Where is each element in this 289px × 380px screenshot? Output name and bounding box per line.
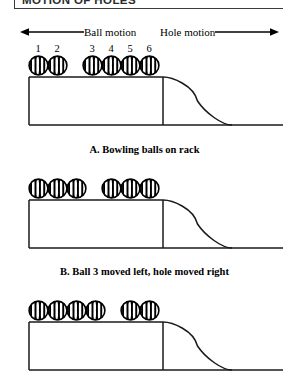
ball-motion-indicator: Ball motion xyxy=(20,24,136,40)
motion-direction-row: Ball motion Hole motion xyxy=(0,24,289,40)
bowling-ball-icon xyxy=(120,55,141,76)
page-title: MOTION OF HOLES xyxy=(22,0,136,6)
bowling-ball-icon xyxy=(66,178,87,199)
bowling-ball-icon xyxy=(47,300,68,321)
diagram-b xyxy=(0,178,289,256)
bowling-ball xyxy=(139,300,160,321)
hole-motion-indicator: Hole motion xyxy=(160,24,279,40)
bowling-ball xyxy=(101,55,122,76)
bowling-ball-icon xyxy=(120,178,141,199)
ball-row-a xyxy=(0,55,289,85)
bowling-ball xyxy=(66,178,87,199)
bowling-ball-icon xyxy=(139,300,160,321)
bowling-ball xyxy=(47,300,68,321)
bowling-ball-icon xyxy=(139,178,160,199)
bowling-ball xyxy=(82,55,103,76)
bowling-ball-icon xyxy=(47,55,68,76)
ball-number-2: 2 xyxy=(51,42,63,55)
bowling-ball xyxy=(47,178,68,199)
bowling-ball-icon xyxy=(66,300,87,321)
ball-row-c xyxy=(0,300,289,330)
bowling-ball xyxy=(139,55,160,76)
diagram-a xyxy=(0,55,289,133)
ball-number-5: 5 xyxy=(124,42,136,55)
page-header: MOTION OF HOLES xyxy=(0,0,289,14)
bowling-ball-icon xyxy=(28,55,49,76)
bowling-ball xyxy=(28,300,49,321)
bowling-ball xyxy=(120,300,141,321)
ball-number-1: 1 xyxy=(32,42,44,55)
arrow-left-icon xyxy=(20,25,84,39)
bowling-ball xyxy=(28,55,49,76)
bowling-ball xyxy=(47,55,68,76)
ball-number-6: 6 xyxy=(143,42,155,55)
ball-number-4: 4 xyxy=(105,42,117,55)
bowling-ball-icon xyxy=(85,300,106,321)
bowling-ball xyxy=(139,178,160,199)
bowling-ball xyxy=(101,178,122,199)
bowling-ball-icon xyxy=(28,178,49,199)
bowling-ball xyxy=(120,55,141,76)
bowling-ball-icon xyxy=(120,300,141,321)
diagram-c xyxy=(0,300,289,380)
caption-b: B. Ball 3 moved left, hole moved right xyxy=(0,265,289,279)
ball-row-b xyxy=(0,178,289,208)
bowling-ball xyxy=(66,300,87,321)
caption-a: A. Bowling balls on rack xyxy=(0,143,289,157)
bowling-ball-icon xyxy=(139,55,160,76)
arrow-right-icon xyxy=(215,25,279,39)
bowling-ball-icon xyxy=(101,178,122,199)
bowling-ball-icon xyxy=(101,55,122,76)
bowling-ball xyxy=(120,178,141,199)
bowling-ball xyxy=(85,300,106,321)
ball-number-row: 123456 xyxy=(0,42,289,55)
hole-motion-label: Hole motion xyxy=(160,24,215,40)
bowling-ball-icon xyxy=(28,300,49,321)
ball-number-3: 3 xyxy=(86,42,98,55)
ball-motion-label: Ball motion xyxy=(84,24,136,40)
bowling-ball xyxy=(28,178,49,199)
bowling-ball-icon xyxy=(82,55,103,76)
bowling-ball-icon xyxy=(47,178,68,199)
header-rule xyxy=(14,8,283,9)
